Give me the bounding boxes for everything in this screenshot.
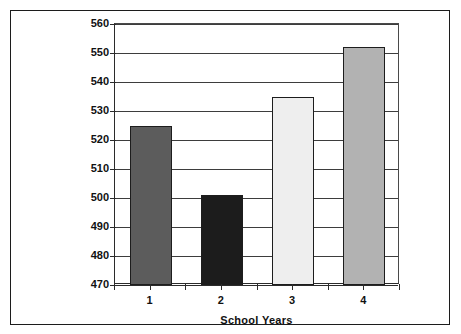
x-tick-4 [363, 284, 364, 290]
y-tick-540 [110, 82, 116, 83]
x-axis-title: School Years [114, 314, 399, 326]
x-axis-label-4: 4 [343, 294, 383, 307]
x-axis-label-2: 2 [201, 294, 241, 307]
bars-layer [115, 24, 398, 283]
bar-1 [130, 126, 172, 286]
y-tick-490 [110, 227, 116, 228]
y-axis-label-490: 490 [63, 221, 109, 232]
x-axis-label-3: 3 [272, 294, 312, 307]
y-axis-label-480: 480 [63, 250, 109, 261]
figure-frame: 470480490500510520530540550560 1234 Scho… [10, 10, 450, 325]
y-tick-480 [110, 256, 116, 257]
bar-2 [201, 195, 243, 285]
bar-3 [272, 97, 314, 286]
y-axis-labels: 470480490500510520530540550560 [57, 23, 109, 284]
y-tick-520 [110, 140, 116, 141]
y-axis-label-540: 540 [63, 76, 109, 87]
y-tick-530 [110, 111, 116, 112]
plot-area [114, 23, 399, 284]
y-tick-550 [110, 53, 116, 54]
x-tick-3 [292, 284, 293, 290]
x-axis-labels: 1234 [114, 294, 399, 310]
y-axis-label-500: 500 [63, 192, 109, 203]
y-axis-label-550: 550 [63, 47, 109, 58]
y-axis-label-510: 510 [63, 163, 109, 174]
y-tick-560 [110, 24, 116, 25]
x-tick-boundary-0 [114, 284, 115, 290]
x-axis-ticks [114, 284, 399, 291]
x-tick-boundary-3 [328, 284, 329, 290]
y-tick-510 [110, 169, 116, 170]
caption-strip [0, 0, 461, 9]
bar-chart: 470480490500510520530540550560 1234 Scho… [11, 11, 451, 326]
y-tick-500 [110, 198, 116, 199]
x-tick-boundary-4 [399, 284, 400, 290]
bar-4 [343, 47, 385, 285]
y-axis-label-530: 530 [63, 105, 109, 116]
x-tick-2 [221, 284, 222, 290]
x-axis-label-1: 1 [130, 294, 170, 307]
y-axis-label-560: 560 [63, 18, 109, 29]
y-axis-label-520: 520 [63, 134, 109, 145]
x-tick-boundary-2 [257, 284, 258, 290]
x-tick-boundary-1 [185, 284, 186, 290]
x-tick-1 [150, 284, 151, 290]
y-axis-label-470: 470 [63, 279, 109, 290]
